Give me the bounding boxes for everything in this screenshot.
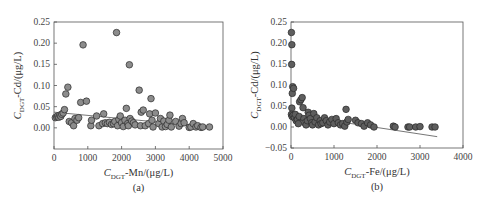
data-point: [371, 124, 378, 131]
data-point: [80, 42, 87, 49]
data-point: [167, 112, 174, 119]
data-point: [113, 29, 120, 36]
data-point: [140, 107, 147, 114]
y-tick-label: 0.15: [270, 59, 287, 69]
panel-label: (b): [371, 181, 384, 193]
x-tick-label: 0: [52, 153, 57, 163]
data-point: [168, 124, 175, 131]
data-point: [75, 114, 82, 121]
y-tick-label: 0.10: [33, 81, 50, 91]
data-point: [199, 124, 206, 131]
data-point: [289, 105, 296, 112]
data-point: [83, 98, 90, 105]
x-tick-label: 1000: [78, 153, 97, 163]
x-axis-label: CDGT-Fe/(μg/L): [344, 166, 410, 180]
data-point: [392, 124, 399, 131]
data-point: [288, 29, 295, 36]
data-point: [136, 87, 143, 94]
data-point: [299, 94, 306, 101]
x-tick-label: 5000: [214, 153, 233, 163]
y-tick-label: 0.05: [270, 101, 287, 111]
data-point: [206, 124, 213, 131]
x-tick-label: 4000: [454, 152, 473, 162]
y-axis-label: CDGT-Cd/(μg/L): [12, 51, 26, 119]
scatter-panel-b: 01000200030004000−0.050.000.050.100.150.…: [249, 17, 473, 193]
y-tick-label: −0.05: [265, 143, 287, 153]
data-point: [432, 124, 439, 131]
data-point: [61, 106, 68, 113]
panel-label: (a): [133, 182, 145, 194]
data-point: [288, 61, 295, 68]
x-axis-label: CDGT-Mn/(μg/L): [104, 167, 174, 181]
x-tick-label: 3000: [411, 152, 430, 162]
data-point: [65, 84, 72, 91]
x-tick-label: 2000: [368, 152, 387, 162]
data-point: [345, 116, 352, 123]
data-point: [289, 41, 296, 48]
y-tick-label: 0.20: [33, 38, 50, 48]
x-tick-label: 4000: [180, 153, 199, 163]
y-tick-label: 0.00: [33, 123, 50, 133]
y-tick-label: 0.25: [270, 17, 287, 27]
y-tick-label: 0.00: [270, 122, 287, 132]
x-tick-label: 2000: [112, 153, 131, 163]
data-point: [100, 111, 107, 118]
data-point: [295, 120, 302, 127]
x-tick-label: 3000: [146, 153, 165, 163]
data-point: [290, 85, 297, 92]
data-point: [148, 95, 155, 102]
data-point: [300, 104, 307, 111]
x-tick-label: 1000: [325, 152, 344, 162]
data-point: [63, 91, 70, 98]
data-point: [343, 106, 350, 113]
data-point: [152, 110, 159, 117]
data-point: [406, 124, 413, 131]
y-tick-label: 0.10: [270, 80, 287, 90]
y-tick-label: 0.15: [33, 59, 50, 69]
data-point: [149, 117, 156, 124]
data-point: [123, 105, 130, 112]
data-point: [417, 123, 424, 130]
y-tick-label: 0.25: [33, 17, 50, 27]
scatter-panel-a: 0100020003000400050000.000.050.100.150.2…: [12, 17, 233, 194]
figure: 0100020003000400050000.000.050.100.150.2…: [0, 0, 487, 205]
x-tick-label: 0: [289, 152, 294, 162]
y-tick-label: 0.20: [270, 38, 287, 48]
y-tick-label: 0.05: [33, 102, 50, 112]
data-point: [126, 61, 133, 68]
y-axis-label: CDGT-Cd/(μg/L): [249, 51, 263, 119]
data-point: [93, 113, 100, 120]
